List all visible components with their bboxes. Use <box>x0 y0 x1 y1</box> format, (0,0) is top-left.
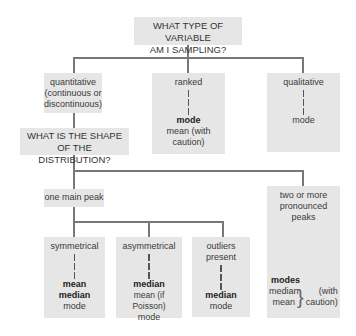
ranked-box: ranked mode mean (with caution) <box>152 73 225 154</box>
connector-ranked <box>187 57 189 73</box>
asymmetrical-primary: median <box>116 279 182 290</box>
quantitative-label: quantitative <box>44 77 102 88</box>
outliers-box: outliers present median mode <box>192 237 250 317</box>
outliers-primary: median <box>192 290 250 301</box>
quantitative-line2: (continuous or <box>44 88 102 99</box>
ranked-secondary2: caution) <box>152 137 225 148</box>
dash-icon <box>188 99 190 106</box>
asymmetrical-box: asymmetrical median mean (if Poisson) mo… <box>116 237 182 318</box>
shape-line2: OF THE DISTRIBUTION? <box>20 142 129 166</box>
multi-peak-stats: modes median mean } (with caution) <box>269 275 337 308</box>
dash-icon <box>188 90 190 97</box>
dash-icon <box>74 254 76 261</box>
dash-icon <box>74 263 76 270</box>
dash-icon <box>303 108 305 115</box>
one-peak-box: one main peak <box>44 189 104 207</box>
multi-peak-item2: mean <box>269 297 295 308</box>
shape-line1: WHAT IS THE SHAPE <box>20 130 129 142</box>
root-question-box: WHAT TYPE OF VARIABLE AM I SAMPLING? <box>134 17 242 45</box>
dash-icon <box>148 272 150 279</box>
qualitative-primary: mode <box>267 115 340 126</box>
symmetrical-label: symmetrical <box>44 241 105 252</box>
connector-outliers <box>222 221 224 237</box>
connector-level1-horizontal <box>73 57 304 59</box>
symmetrical-box: symmetrical mean median mode <box>44 237 105 318</box>
root-line1: WHAT TYPE OF VARIABLE <box>134 20 242 44</box>
dash-icon <box>303 99 305 106</box>
outliers-line1: outliers <box>192 241 250 252</box>
asymmetrical-secondary1: mean (if Poisson) <box>116 290 182 312</box>
qualitative-box: qualitative mode <box>267 73 340 152</box>
qualitative-label: qualitative <box>267 77 340 88</box>
ranked-label: ranked <box>152 77 225 88</box>
ranked-primary: mode <box>152 115 225 126</box>
asymmetrical-label: asymmetrical <box>116 241 182 252</box>
connector-asymmetrical <box>148 221 150 237</box>
symmetrical-primary1: mean <box>44 279 105 290</box>
connector-qualitative <box>302 57 304 73</box>
quantitative-box: quantitative (continuous or discontinuou… <box>44 73 102 113</box>
connector-multi-peak <box>302 170 304 186</box>
multi-peak-line1: two or more <box>267 190 340 201</box>
multi-peak-item1: median <box>269 286 295 297</box>
root-line2: AM I SAMPLING? <box>134 44 242 56</box>
multi-peak-line2: pronounced peaks <box>267 201 340 223</box>
connector-quant-to-shape <box>73 113 75 128</box>
shape-question-box: WHAT IS THE SHAPE OF THE DISTRIBUTION? <box>20 128 129 155</box>
multi-peak-primary: modes <box>269 275 337 286</box>
connector-quantitative <box>73 57 75 73</box>
outliers-line2: present <box>192 252 250 263</box>
one-peak-label: one main peak <box>44 192 104 203</box>
outliers-secondary: mode <box>192 301 250 312</box>
dash-icon <box>74 272 76 279</box>
dash-icon <box>188 108 190 115</box>
symmetrical-primary2: median <box>44 290 105 301</box>
connector-level2-horizontal <box>73 170 304 172</box>
quantitative-line3: discontinuous) <box>44 99 102 110</box>
multi-peak-note1: (with <box>306 286 338 297</box>
multi-peak-box: two or more pronounced peaks modes media… <box>267 186 340 318</box>
dash-icon <box>220 283 222 290</box>
multi-peak-note2: caution) <box>306 297 338 308</box>
symmetrical-secondary: mode <box>44 301 105 312</box>
brace-icon: } <box>297 287 304 307</box>
ranked-secondary1: mean (with <box>152 126 225 137</box>
dash-icon <box>303 90 305 97</box>
dash-icon <box>148 254 150 261</box>
dash-icon <box>220 265 222 272</box>
dash-icon <box>148 263 150 270</box>
dash-icon <box>220 274 222 281</box>
asymmetrical-secondary2: mode <box>116 312 182 323</box>
